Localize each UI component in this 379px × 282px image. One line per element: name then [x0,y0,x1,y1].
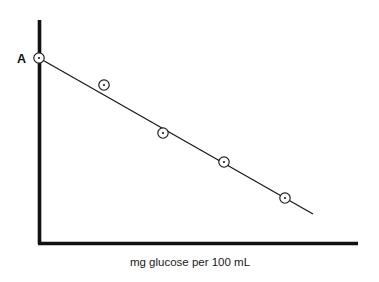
data-point-marker [158,128,168,138]
data-point-4-center-dot [223,161,225,163]
series-label-a: A [17,52,26,66]
chart-figure: A mg glucose per 100 mL [0,0,379,282]
x-axis-label: mg glucose per 100 mL [130,256,251,268]
data-point-marker [280,193,290,203]
series-a-trend-line [39,58,313,214]
data-point-1-center-dot [38,57,40,59]
data-point-marker [219,157,229,167]
data-point-marker [34,53,44,63]
data-point-3-center-dot [162,132,164,134]
data-point-5-center-dot [284,197,286,199]
chart-canvas: A mg glucose per 100 mL [0,0,379,282]
data-point-marker [99,80,109,90]
data-point-2-center-dot [103,84,105,86]
